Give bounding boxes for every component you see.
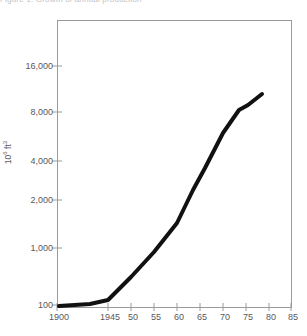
plot-area xyxy=(57,20,292,308)
y-axis-title: 106 ft3 xyxy=(4,131,13,175)
y-axis-title-base: 10 xyxy=(3,155,13,164)
x-tick-label: 70 xyxy=(220,313,230,322)
y-tick-label: 8,000 xyxy=(5,108,53,117)
x-tick-label: 80 xyxy=(266,313,276,322)
x-tick-label: 1900 xyxy=(49,313,69,322)
y-axis-title-unit-exponent: 3 xyxy=(2,141,8,144)
x-tick-label: 1945 xyxy=(100,313,120,322)
y-tick-label: 16,000 xyxy=(5,62,53,71)
y-axis-title-exponent: 6 xyxy=(2,151,8,154)
y-tick-label: 1,000 xyxy=(5,244,53,253)
x-tick-label: 55 xyxy=(151,313,161,322)
x-tick-label: 50 xyxy=(128,313,138,322)
x-tick-label: 75 xyxy=(243,313,253,322)
x-tick-label: 60 xyxy=(174,313,184,322)
x-tick-label: 65 xyxy=(197,313,207,322)
y-tick-label: 2,000 xyxy=(5,196,53,205)
y-tick-label: 100 xyxy=(5,301,53,310)
x-tick-label: 85 xyxy=(288,313,298,322)
y-axis-title-unit: ft xyxy=(3,144,13,151)
figure-container: Figure 1. Growth of annual production xyxy=(0,0,307,336)
